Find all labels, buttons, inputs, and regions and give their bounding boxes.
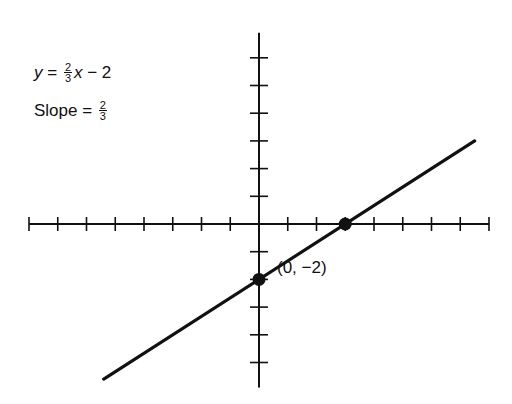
slope-label: Slope = 2 3 [34, 100, 109, 121]
data-point [253, 273, 266, 286]
fraction-denominator: 3 [65, 73, 71, 83]
coordinate-plane [0, 0, 512, 404]
equation-rest: − 2 [83, 63, 112, 83]
equation-y: y [34, 63, 43, 83]
slope-fraction: 2 3 [99, 100, 107, 121]
data-point [339, 218, 352, 231]
fraction-denominator: 3 [100, 111, 106, 121]
equation-label: y = 2 3 x − 2 [34, 62, 111, 83]
slope-text: Slope = [34, 101, 97, 121]
point-label-y-intercept: (0, −2) [277, 258, 327, 278]
equation-equals: = [43, 63, 62, 83]
equation-fraction: 2 3 [64, 62, 72, 83]
equation-x: x [74, 63, 83, 83]
